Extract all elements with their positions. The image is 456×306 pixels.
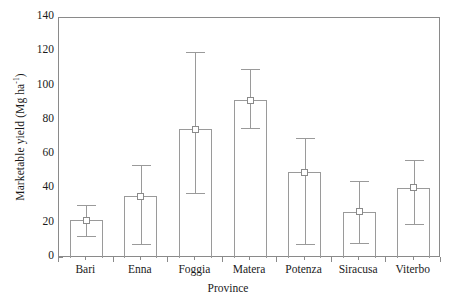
x-tick-mark [113,257,114,262]
x-axis-label: Province [0,282,456,294]
error-bar-cap-upper [186,52,205,53]
y-tick-label: 100 [20,78,54,90]
mean-marker [192,126,199,133]
x-tick-mark [440,257,441,262]
x-tick-mark [385,257,386,262]
mean-marker [301,169,308,176]
mean-marker [83,217,90,224]
error-bar-cap-upper [241,69,260,70]
y-tick-label: 0 [20,249,54,261]
error-bar-cap-upper [77,205,96,206]
error-bar-cap-upper [350,181,369,182]
error-bar-cap-upper [132,165,151,166]
error-bar-cap-lower [350,243,369,244]
x-tick-label: Siracusa [339,263,378,275]
plot-area [58,17,440,257]
mean-marker [137,193,144,200]
x-tick-mark-minor [85,257,86,260]
x-tick-mark-minor [304,257,305,260]
error-bar-cap-lower [241,128,260,129]
x-tick-mark [331,257,332,262]
x-tick-mark-minor [140,257,141,260]
error-bar-cap-lower [405,224,424,225]
x-tick-mark [222,257,223,262]
x-tick-mark [167,257,168,262]
chart-figure: Marketable yield (Mg ha-1) 0204060801001… [0,0,456,306]
x-tick-mark [58,257,59,262]
error-bar-line [414,160,415,223]
error-bar-cap-upper [296,138,315,139]
error-bar-cap-lower [296,244,315,245]
error-bar-cap-lower [77,236,96,237]
mean-marker [356,208,363,215]
x-tick-mark [276,257,277,262]
error-bar-line [141,165,142,244]
x-tick-label: Enna [128,263,152,275]
y-tick-label: 120 [20,43,54,55]
y-tick-label: 140 [20,9,54,21]
y-tick-label: 40 [20,180,54,192]
error-bar-cap-upper [405,160,424,161]
error-bar-line [195,52,196,193]
x-tick-mark-minor [194,257,195,260]
error-bar-cap-lower [132,244,151,245]
error-bar-cap-lower [186,193,205,194]
error-bar-line [305,138,306,244]
x-tick-label: Foggia [178,263,210,275]
x-tick-mark-minor [249,257,250,260]
y-tick-label: 80 [20,112,54,124]
x-tick-label: Bari [75,263,95,275]
mean-marker [410,184,417,191]
x-tick-label: Viterbo [395,263,429,275]
mean-marker [247,97,254,104]
x-tick-mark-minor [358,257,359,260]
x-tick-mark-minor [413,257,414,260]
x-tick-label: Potenza [285,263,321,275]
y-tick-label: 60 [20,146,54,158]
x-tick-label: Matera [233,263,266,275]
y-tick-label: 20 [20,215,54,227]
